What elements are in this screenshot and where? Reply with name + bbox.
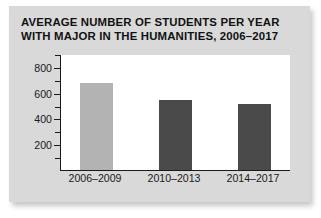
y-axis-label-200: 200 [34,139,52,151]
plot-area [60,55,290,171]
bar-2010-2013 [159,100,192,170]
x-axis-label-2014-2017: 2014–2017 [226,172,279,184]
y-axis-label-400: 400 [34,113,52,125]
y-tick-900 [55,55,61,56]
chart-title-line-1: AVERAGE NUMBER OF STUDENTS PER YEAR [21,15,299,29]
bar-2006-2009 [80,83,113,170]
y-tick-300 [55,132,61,133]
chart-screenshot: AVERAGE NUMBER OF STUDENTS PER YEAR WITH… [0,0,321,218]
y-tick-600 [54,94,62,95]
y-axis-label-800: 800 [34,62,52,74]
chart-title-line-2: WITH MAJOR IN THE HUMANITIES, 2006–2017 [21,29,299,43]
y-tick-400 [54,119,62,120]
y-tick-700 [55,81,61,82]
y-axis-label-600: 600 [34,88,52,100]
y-tick-100 [55,158,61,159]
chart-title: AVERAGE NUMBER OF STUDENTS PER YEAR WITH… [21,15,299,43]
bar-2014-2017 [238,104,271,170]
x-axis-label-2010-2013: 2010–2013 [147,172,200,184]
x-axis-labels: 2006–2009 2010–2013 2014–2017 [60,172,290,190]
chart-card: AVERAGE NUMBER OF STUDENTS PER YEAR WITH… [9,6,310,202]
y-tick-500 [55,107,61,108]
x-axis-label-2006-2009: 2006–2009 [68,172,121,184]
y-tick-800 [54,68,62,69]
y-axis-labels: 800 600 400 200 [18,55,52,171]
y-tick-200 [54,145,62,146]
